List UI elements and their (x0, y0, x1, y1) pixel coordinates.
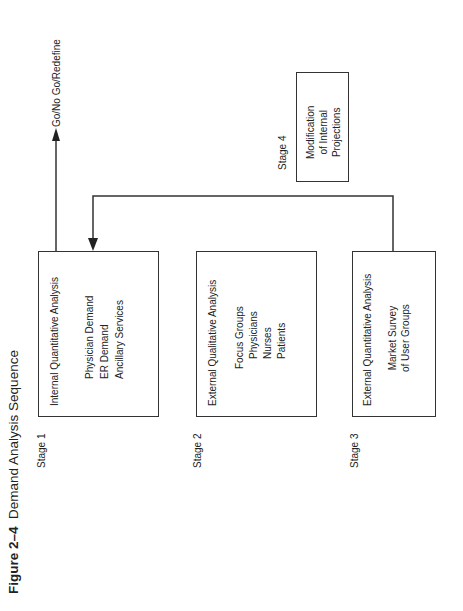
figure-title: Figure 2–4 Demand Analysis Sequence (6, 350, 21, 594)
stage-3-label: Stage 3 (349, 434, 360, 468)
stage-4-item: Modification (304, 106, 317, 159)
stage-1-label: Stage 1 (36, 434, 47, 468)
stage-4-item: Projections (330, 106, 343, 159)
stage-1-item: ER Demand (97, 296, 112, 379)
stage-2-item: Focus Groups (233, 306, 247, 369)
stage-2-item: Nurses (261, 306, 275, 369)
stage-4-label: Stage 4 (277, 136, 288, 170)
stage-1-heading: Internal Quantitative Analysis (48, 277, 61, 406)
stage-3-heading: External Quantitative Analysis (361, 274, 374, 406)
stage-2-item: Patients (275, 306, 289, 369)
stage-3-items: Market Survey of User Groups (386, 304, 412, 372)
stage-2-label: Stage 2 (192, 434, 203, 468)
stage-2-heading: External Qualitative Analysis (206, 280, 219, 406)
stage-2-items: Focus Groups Physicians Nurses Patients (233, 306, 289, 369)
stage-3-item: Market Survey (386, 304, 399, 372)
stage-1-items: Physician Demand ER Demand Ancillary Ser… (82, 296, 127, 379)
feedback-arrow-head-icon (88, 238, 98, 251)
stage-1-item: Physician Demand (82, 296, 97, 379)
stage-2-item: Physicians (247, 306, 261, 369)
feedback-loop-line (93, 196, 393, 251)
stage-4-item: of Internal (317, 106, 330, 159)
stage-4-items: Modification of Internal Projections (304, 106, 343, 159)
outcome-arrow-head-icon (52, 128, 60, 141)
stage-1-item: Ancillary Services (112, 296, 127, 379)
outcome-label: Go/No Go/Redefine (50, 39, 63, 127)
figure-number: Figure 2–4 (6, 526, 21, 594)
stage-3-item: of User Groups (399, 304, 412, 372)
figure-title-text: Demand Analysis Sequence (6, 350, 21, 519)
